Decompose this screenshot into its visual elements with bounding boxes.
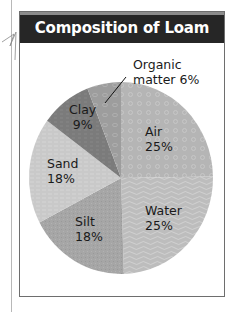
clay-label: Clay 9% (69, 102, 96, 132)
clay-pct: 9% (69, 117, 96, 132)
water-pct: 25% (145, 218, 182, 233)
organic-label-line2: matter 6% (133, 72, 199, 87)
air-name: Air (145, 124, 173, 139)
water-name: Water (145, 203, 182, 218)
silt-label: Silt 18% (75, 214, 103, 244)
silt-pct: 18% (75, 229, 103, 244)
organic-label-line1: Organic (133, 57, 199, 72)
sand-pct: 18% (47, 171, 78, 186)
organic-label: Organic matter 6% (133, 57, 199, 87)
pie-chart (0, 0, 237, 312)
water-label: Water 25% (145, 203, 182, 233)
air-pct: 25% (145, 139, 173, 154)
air-label: Air 25% (145, 124, 173, 154)
clay-name: Clay (69, 102, 96, 117)
sand-label: Sand 18% (47, 156, 78, 186)
silt-name: Silt (75, 214, 103, 229)
sand-name: Sand (47, 156, 78, 171)
